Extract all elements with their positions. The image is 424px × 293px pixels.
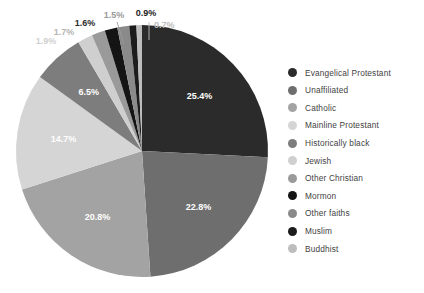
legend-item-label: Mainline Protestant: [305, 121, 379, 129]
legend-item[interactable]: Catholic: [288, 99, 424, 117]
legend-item-label: Other faiths: [305, 209, 350, 217]
legend-item-label: Unaffiliated: [305, 86, 348, 94]
slice-callout-label: 1.7%: [54, 27, 75, 37]
legend-item-label: Historically black: [305, 139, 369, 147]
legend-item[interactable]: Unaffiliated: [288, 82, 424, 100]
legend-item[interactable]: Buddhist: [288, 240, 424, 258]
legend-item-label: Buddhist: [305, 245, 339, 253]
slice-callout-label: 0.9%: [136, 8, 157, 18]
slice-callout-label: 1.5%: [104, 10, 125, 20]
pie-chart: 25.4%22.8%20.8%14.7%6.5%1.9%1.7%1.6%1.5%…: [0, 0, 424, 293]
legend-swatch-icon: [288, 174, 297, 183]
legend-item[interactable]: Mainline Protestant: [288, 117, 424, 135]
legend-swatch-icon: [288, 244, 297, 253]
legend-item[interactable]: Mormon: [288, 187, 424, 205]
legend-swatch-icon: [288, 156, 297, 165]
legend-item-label: Evangelical Protestant: [305, 69, 391, 77]
pie-slice[interactable]: [142, 151, 268, 277]
chart-legend: Evangelical ProtestantUnaffiliatedCathol…: [288, 64, 424, 258]
pie-slice[interactable]: [142, 25, 268, 157]
legend-item-label: Jewish: [305, 157, 331, 165]
pie-slices: [16, 25, 268, 277]
legend-swatch-icon: [288, 86, 297, 95]
legend-item[interactable]: Evangelical Protestant: [288, 64, 424, 82]
legend-item-label: Mormon: [305, 192, 336, 200]
slice-callout-label: 0.7%: [154, 20, 175, 30]
legend-item-label: Catholic: [305, 104, 336, 112]
legend-item-label: Other Christian: [305, 174, 363, 182]
legend-item-label: Muslim: [305, 227, 332, 235]
slice-callout-label: 1.9%: [36, 36, 57, 46]
legend-swatch-icon: [288, 103, 297, 112]
legend-swatch-icon: [288, 121, 297, 130]
legend-swatch-icon: [288, 191, 297, 200]
legend-item[interactable]: Jewish: [288, 152, 424, 170]
legend-swatch-icon: [288, 68, 297, 77]
legend-swatch-icon: [288, 209, 297, 218]
legend-item[interactable]: Muslim: [288, 222, 424, 240]
legend-item[interactable]: Historically black: [288, 134, 424, 152]
legend-item[interactable]: Other faiths: [288, 205, 424, 223]
legend-item[interactable]: Other Christian: [288, 170, 424, 188]
slice-callout-label: 1.6%: [75, 18, 96, 28]
legend-swatch-icon: [288, 139, 297, 148]
legend-swatch-icon: [288, 227, 297, 236]
